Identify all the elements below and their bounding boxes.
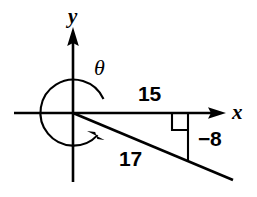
x-axis-label: x	[232, 102, 243, 123]
right-angle-marker	[172, 114, 188, 130]
angle-arc-arrowhead	[87, 131, 105, 140]
adjacent-leg-label: 15	[138, 83, 161, 104]
theta-angle-label: θ	[94, 57, 105, 79]
opposite-leg-label: −8	[198, 128, 221, 149]
hypotenuse-label: 17	[119, 148, 142, 169]
y-axis-label: y	[68, 6, 77, 27]
geometry-figure: y x θ 15 17 −8	[0, 0, 257, 197]
